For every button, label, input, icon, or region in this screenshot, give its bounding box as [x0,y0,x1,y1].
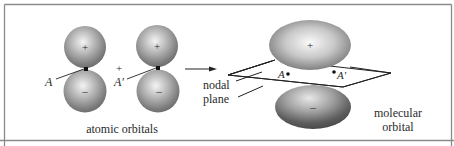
mo-nucleus-a [286,72,290,76]
lobe-sign-negative: – [81,85,88,97]
nucleus-dot [156,66,160,70]
reaction-arrow-icon [185,67,217,72]
mo-point-label-a-prime: A′ [336,69,347,81]
nodal-plane-label-line2: plane [203,92,229,106]
nucleus-dot [84,67,88,71]
lobe-sign-positive: + [154,40,160,52]
nodal-plane-label-line1: nodal [203,78,230,92]
plus-sign: + [116,62,122,74]
mo-point-label-a: A [277,68,285,80]
atom-label-a: A [44,75,53,89]
caption-molecular-line2: orbital [382,120,414,134]
mo-lobe-sign-positive: + [307,39,313,51]
lobe-sign-positive: + [82,41,88,53]
caption-atomic-orbitals: atomic orbitals [86,122,158,136]
mo-lobe-sign-negative: – [309,101,316,113]
lobe-sign-negative: – [155,85,162,97]
atom-label-a-prime: A′ [113,75,124,89]
atomic-orbital-a-prime: + – A′ [113,25,180,113]
atomic-orbital-a: + – A [44,26,107,113]
caption-molecular-line1: molecular [374,106,422,120]
orbital-diagram: + – A + + – A′ atomic orbitals nodal pla… [0,0,454,146]
mo-nucleus-a-prime [332,70,336,74]
